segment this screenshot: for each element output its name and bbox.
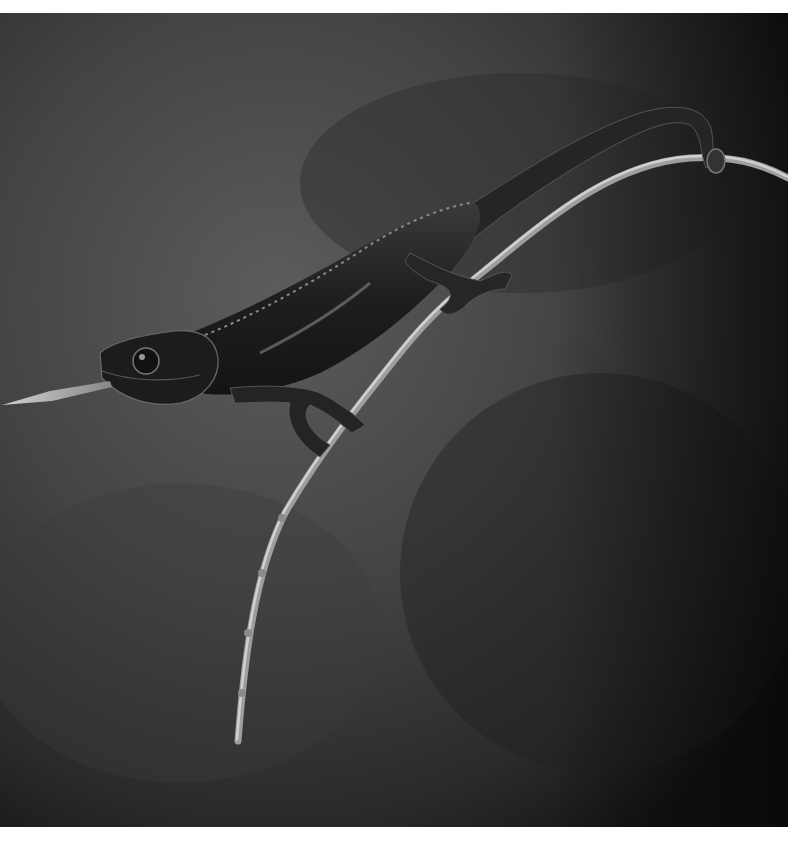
chameleon-eye — [133, 348, 159, 374]
photo-illustration — [0, 13, 788, 827]
chameleon-photo: Black and white photograph of a chameleo… — [0, 13, 788, 827]
